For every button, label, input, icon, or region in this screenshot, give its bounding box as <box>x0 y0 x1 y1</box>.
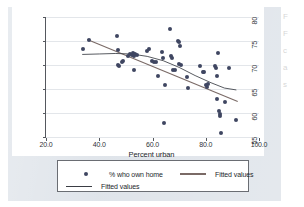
scatter-point <box>215 74 219 78</box>
scatter-point <box>156 74 160 78</box>
fitted-line <box>87 40 237 102</box>
legend-label-fitted-thick: Fitted values <box>215 171 253 178</box>
bleed-line: a <box>283 59 303 76</box>
scatter-point <box>186 86 190 90</box>
scatter-point <box>162 121 166 125</box>
legend-label-own-home: % who own home <box>109 171 163 178</box>
scatter-point <box>117 64 121 68</box>
legend-line-thick-icon <box>180 173 206 175</box>
scatter-point <box>87 38 91 42</box>
scatter-point <box>147 47 151 51</box>
scatter-point <box>179 63 183 67</box>
scatter-point <box>218 114 222 118</box>
fitted-lines-layer <box>46 17 259 137</box>
bleed-line: F <box>283 8 303 25</box>
scatter-point <box>178 44 182 48</box>
x-tick-label: 80.0 <box>199 141 212 148</box>
scatter-point <box>121 59 125 63</box>
scatter-point <box>198 64 202 68</box>
scatter-point <box>168 27 172 31</box>
x-tick-label: 100.0 <box>251 141 268 148</box>
scatter-point <box>206 82 210 86</box>
scatter-point <box>170 56 174 60</box>
scatter-point <box>214 66 218 70</box>
legend-entry-own-home: % who own home <box>84 168 163 180</box>
scatter-point <box>115 34 119 38</box>
bleed-line: c <box>283 42 303 59</box>
scatter-point <box>219 131 223 135</box>
bleed-line: F <box>283 25 303 42</box>
scatter-point <box>234 118 238 122</box>
scatter-point <box>116 48 120 52</box>
x-axis-title: Percent urban <box>45 150 258 159</box>
bleed-line: s <box>283 76 303 93</box>
scatter-point <box>132 68 136 72</box>
fitted-line <box>82 53 236 89</box>
scatter-point <box>227 66 231 70</box>
x-tick-label: 20.0 <box>40 141 53 148</box>
scatter-point <box>173 68 177 72</box>
chart-legend: % who own home Fitted values Fitted valu… <box>57 160 249 192</box>
scatter-point <box>185 75 189 79</box>
scatter-point <box>160 50 164 54</box>
scatter-point <box>163 83 167 87</box>
legend-entry-fitted-thin: Fitted values <box>66 180 139 192</box>
scatter-point <box>216 51 220 55</box>
legend-dot-icon <box>84 172 88 176</box>
page-bleed-text: FFcas <box>283 8 303 118</box>
scatter-point <box>223 100 227 104</box>
scatter-point <box>161 56 165 60</box>
legend-label-fitted-thin: Fitted values <box>101 183 139 190</box>
chart-card: 556065707580 20.040.060.080.0100.0 Perce… <box>12 4 264 156</box>
figure-page: FFcas 556065707580 20.040.060.080.0100.0… <box>0 0 304 207</box>
plot-area: 556065707580 20.040.060.080.0100.0 <box>45 17 259 138</box>
scatter-point <box>215 97 219 101</box>
scatter-point <box>202 70 206 74</box>
legend-line-thin-icon <box>66 186 92 187</box>
x-tick-label: 60.0 <box>146 141 159 148</box>
scatter-point <box>81 47 85 51</box>
scatter-point <box>154 60 158 64</box>
scatter-point <box>135 53 139 57</box>
legend-entry-fitted-thick: Fitted values <box>180 168 253 180</box>
x-tick-label: 40.0 <box>93 141 106 148</box>
